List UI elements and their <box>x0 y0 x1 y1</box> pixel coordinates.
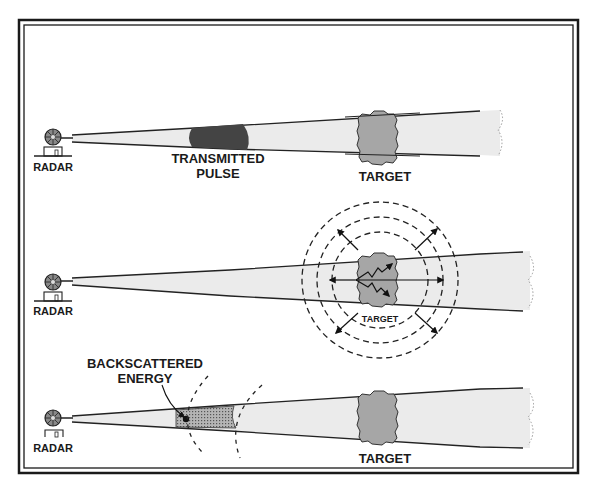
target-label: TARGET <box>350 170 420 184</box>
transmitted-pulse-label-line2: PULSE <box>168 167 268 181</box>
radar-beam <box>72 388 534 448</box>
target-cloud-icon <box>357 111 398 165</box>
radar-dish-icon <box>34 274 73 301</box>
radar-diagram: RADAR TRANSMITTED PULSE TARGET RADAR TAR… <box>0 0 598 492</box>
radar-beam <box>72 110 503 156</box>
panel-1 <box>34 110 503 165</box>
radar-beam <box>72 251 534 311</box>
radar-label: RADAR <box>32 442 74 454</box>
radar-label: RADAR <box>32 161 74 173</box>
target-cloud-icon <box>357 391 398 445</box>
backscattered-energy-label-line2: ENERGY <box>85 372 205 386</box>
radar-label: RADAR <box>32 305 74 317</box>
transmitted-pulse-label-line1: TRANSMITTED <box>168 152 268 166</box>
radar-dish-icon <box>45 410 73 437</box>
backscattered-energy-label-line1: BACKSCATTERED <box>85 357 205 371</box>
target-label: TARGET <box>355 315 405 325</box>
panel-3 <box>45 376 534 458</box>
diagram-canvas <box>0 0 598 492</box>
transmitted-pulse <box>189 124 249 150</box>
panel-2 <box>34 202 534 358</box>
target-label: TARGET <box>350 452 420 466</box>
radar-dish-icon <box>34 129 73 156</box>
